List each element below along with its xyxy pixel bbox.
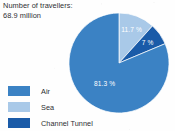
legend-swatch-air bbox=[8, 86, 30, 96]
pie-slice-label-sea: 11.7 % bbox=[121, 26, 142, 33]
legend-item-sea: Sea bbox=[8, 99, 93, 115]
chart-legend: AirSeaChannel Tunnel bbox=[8, 83, 93, 131]
pie-slice-label-air: 81.3 % bbox=[94, 80, 115, 87]
legend-swatch-sea bbox=[8, 102, 30, 112]
chart-title-line-1: Number of travellers: bbox=[3, 1, 113, 11]
legend-label-air: Air bbox=[41, 87, 50, 96]
legend-item-channel-tunnel: Channel Tunnel bbox=[8, 115, 93, 131]
pie-slice-label-channel-tunnel: 7 % bbox=[142, 39, 154, 46]
legend-label-channel-tunnel: Channel Tunnel bbox=[41, 119, 93, 128]
legend-label-sea: Sea bbox=[41, 103, 54, 112]
legend-item-air: Air bbox=[8, 83, 93, 99]
legend-swatch-channel-tunnel bbox=[8, 118, 30, 128]
pie-chart-figure: Number of travellers: 68.9 million 11.7 … bbox=[0, 0, 175, 131]
